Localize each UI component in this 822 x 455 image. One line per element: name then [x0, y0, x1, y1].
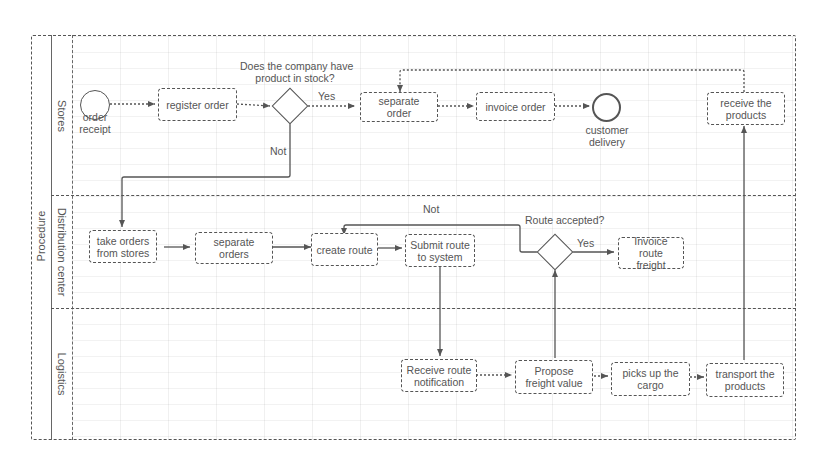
flow-label-yes: Yes [318, 90, 335, 102]
stock-question-line2: product in stock? [240, 72, 350, 84]
task-create-route[interactable]: create route [311, 233, 378, 266]
task-submit-route-to-system[interactable]: Submit route to system [405, 234, 475, 267]
task-picks-up-the-cargo[interactable]: picks up the cargo [611, 362, 690, 396]
start-label-line1: order [72, 111, 118, 123]
start-label-line2: receipt [72, 123, 118, 135]
gateway-stock-question: Does the company have product in stock? [240, 60, 350, 84]
bpmn-diagram: Procedure Stores Distribution center Log… [0, 0, 822, 455]
task-receive-route-notification[interactable]: Receive route notification [401, 359, 477, 392]
end-label-line2: delivery [578, 136, 636, 148]
flow-label-route-not: Not [423, 203, 439, 215]
task-propose-freight-value[interactable]: Propose freight value [515, 360, 593, 394]
task-register-order[interactable]: register order [158, 88, 237, 121]
end-event-customer-delivery[interactable] [592, 93, 621, 122]
task-receive-the-products[interactable]: receive the products [707, 92, 785, 125]
task-separate-order[interactable]: separate order [360, 92, 438, 122]
start-event-label: order receipt [72, 111, 118, 135]
task-separate-orders[interactable]: separate orders [195, 232, 273, 264]
stock-question-line1: Does the company have [240, 60, 350, 72]
task-transport-the-products[interactable]: transport the products [706, 363, 784, 397]
task-take-orders-from-stores[interactable]: take orders from stores [89, 230, 157, 263]
end-event-label: customer delivery [578, 124, 636, 148]
task-invoice-order[interactable]: invoice order [476, 92, 555, 121]
flow-label-not: Not [270, 145, 286, 157]
task-invoice-route-freight[interactable]: Invoice route freight [618, 237, 684, 269]
gateway-route-question: Route accepted? [525, 214, 604, 226]
flow-label-route-yes: Yes [577, 237, 594, 249]
end-label-line1: customer [578, 124, 636, 136]
